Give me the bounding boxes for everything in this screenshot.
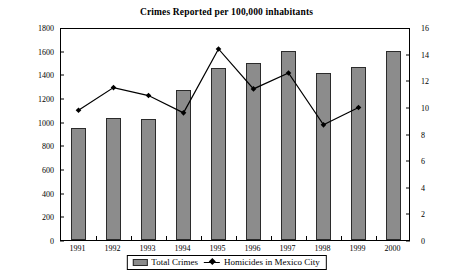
homicides-marker-1999 bbox=[356, 105, 362, 111]
homicides-marker-1993 bbox=[146, 93, 152, 99]
right-axis-tick-label: 4 bbox=[416, 183, 425, 192]
right-axis-tick-label: 16 bbox=[416, 24, 429, 33]
legend-label-total-crimes: Total Crimes bbox=[151, 257, 198, 267]
left-axis-tick-mark bbox=[60, 51, 64, 52]
right-axis-tick-mark bbox=[406, 134, 410, 135]
left-axis-tick-mark bbox=[60, 241, 64, 242]
left-axis-tick-mark bbox=[60, 75, 64, 76]
right-axis-tick-mark bbox=[406, 241, 410, 242]
right-axis-tick-mark bbox=[406, 214, 410, 215]
plot-area bbox=[60, 28, 410, 241]
x-axis-tick-label-1992: 1992 bbox=[105, 244, 121, 253]
left-axis-tick-label: 200 bbox=[0, 213, 59, 222]
left-axis-tick-mark bbox=[60, 146, 64, 147]
chart-legend: Total Crimes Homicides in Mexico City bbox=[126, 255, 326, 270]
right-axis-tick-label: 0 bbox=[416, 237, 425, 246]
x-axis-tick-label-1995: 1995 bbox=[210, 244, 226, 253]
left-axis-tick-label: 1800 bbox=[0, 24, 59, 33]
legend-item-homicides: Homicides in Mexico City bbox=[204, 257, 320, 267]
right-axis-tick-label: 8 bbox=[416, 130, 425, 139]
x-axis-tick-label-1998: 1998 bbox=[315, 244, 331, 253]
x-axis-tick-label-1996: 1996 bbox=[245, 244, 261, 253]
right-axis-tick-label: 12 bbox=[416, 77, 429, 86]
right-axis-tick-label: 10 bbox=[416, 103, 429, 112]
chart-title: Crimes Reported per 100,000 inhabitants bbox=[0, 7, 453, 17]
line-marker-icon bbox=[204, 259, 220, 266]
right-axis-tick-mark bbox=[406, 81, 410, 82]
legend-label-homicides: Homicides in Mexico City bbox=[224, 257, 320, 267]
x-axis-tick-label-1993: 1993 bbox=[140, 244, 156, 253]
x-axis-tick-label-1999: 1999 bbox=[350, 244, 366, 253]
left-axis-tick-mark bbox=[60, 193, 64, 194]
chart-container: Crimes Reported per 100,000 inhabitants … bbox=[0, 0, 453, 280]
right-axis-tick-mark bbox=[406, 187, 410, 188]
x-axis-tick-label-1997: 1997 bbox=[280, 244, 296, 253]
left-axis-tick-mark bbox=[60, 122, 64, 123]
x-axis-tick-label-2000: 2000 bbox=[385, 244, 401, 253]
right-axis-tick-label: 2 bbox=[416, 210, 425, 219]
left-axis-tick-label: 1600 bbox=[0, 47, 59, 56]
x-axis-tick-label-1991: 1991 bbox=[70, 244, 86, 253]
right-axis-tick-mark bbox=[406, 54, 410, 55]
left-axis-tick-mark bbox=[60, 170, 64, 171]
right-axis-tick-label: 6 bbox=[416, 157, 425, 166]
left-axis-tick-label: 1200 bbox=[0, 95, 59, 104]
right-axis-tick-mark bbox=[406, 107, 410, 108]
bar-swatch-icon bbox=[132, 259, 147, 266]
homicides-line-series bbox=[61, 29, 411, 242]
right-axis-tick-label: 14 bbox=[416, 50, 429, 59]
left-axis-tick-label: 1000 bbox=[0, 118, 59, 127]
left-axis-tick-mark bbox=[60, 99, 64, 100]
homicides-line-path bbox=[79, 49, 359, 125]
left-axis-tick-mark bbox=[60, 217, 64, 218]
legend-item-total-crimes: Total Crimes bbox=[132, 257, 198, 267]
homicides-marker-1994 bbox=[181, 110, 187, 116]
x-axis-tick-label-1994: 1994 bbox=[175, 244, 191, 253]
left-axis-tick-label: 0 bbox=[0, 237, 59, 246]
left-axis-tick-label: 400 bbox=[0, 189, 59, 198]
left-axis-tick-label: 600 bbox=[0, 166, 59, 175]
left-axis-tick-label: 800 bbox=[0, 142, 59, 151]
right-axis-tick-mark bbox=[406, 161, 410, 162]
left-axis-tick-label: 1400 bbox=[0, 71, 59, 80]
